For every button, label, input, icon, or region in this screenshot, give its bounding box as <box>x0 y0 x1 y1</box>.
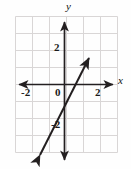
origin-label: 0 <box>55 87 61 98</box>
x-axis-label: x <box>118 75 123 86</box>
y-axis-label: y <box>66 1 71 12</box>
x-tick-label-neg2: -2 <box>21 87 30 98</box>
y-tick-label-neg2: -2 <box>51 119 60 130</box>
graph-canvas <box>0 0 131 169</box>
x-tick-label-2: 2 <box>95 87 101 98</box>
y-tick-label-2: 2 <box>54 42 60 53</box>
coordinate-plane-graph: x y 2 -2 -2 2 0 <box>0 0 131 169</box>
